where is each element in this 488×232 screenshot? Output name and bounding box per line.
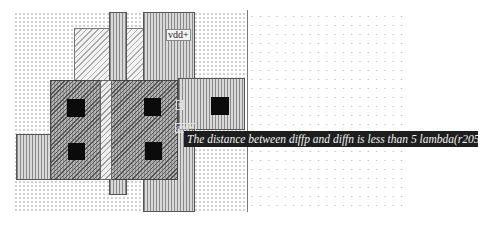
layout-grid-sparse[interactable]: [248, 12, 408, 212]
contact-left-top[interactable]: [67, 99, 85, 117]
contact-left-bottom[interactable]: [68, 143, 85, 160]
layout-canvas[interactable]: vdd+ s gnd+ The distance between diffp a…: [0, 0, 488, 232]
contact-center-bottom[interactable]: [145, 142, 162, 160]
metal-bar-left[interactable]: [16, 134, 52, 180]
diffusion-left[interactable]: [50, 80, 102, 180]
contact-right[interactable]: [211, 97, 229, 115]
contact-center-top[interactable]: [144, 98, 161, 116]
drc-error-message: The distance between diffp and diffn is …: [184, 131, 478, 147]
poly-gate[interactable]: [100, 80, 112, 180]
vdd-label[interactable]: vdd+: [166, 29, 191, 41]
node-label[interactable]: s: [176, 100, 183, 110]
window-boundary-line: [247, 10, 248, 212]
diffusion-center[interactable]: [110, 80, 178, 180]
